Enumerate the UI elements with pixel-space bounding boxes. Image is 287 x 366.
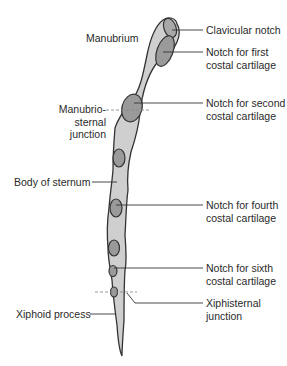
label-notch-sixth: Notch for sixth costal cartilage	[206, 262, 276, 287]
sternum-bone-shape	[107, 18, 179, 356]
label-manubriosternal-junction: Manubrio- sternal junction	[50, 103, 106, 141]
label-body-of-sternum: Body of sternum	[14, 176, 90, 189]
label-notch-fourth-line1: Notch for fourth	[206, 199, 278, 212]
label-notch-sixth-line2: costal cartilage	[206, 275, 276, 288]
label-notch-second-line1: Notch for second	[206, 97, 285, 110]
label-notch-fourth: Notch for fourth costal cartilage	[206, 199, 278, 224]
third-costal-notch-shape	[113, 149, 125, 167]
sternum-diagram: Clavicular notch Notch for first costal …	[0, 0, 287, 366]
label-xiphisternal-junction: Xiphisternal junction	[206, 297, 261, 322]
fourth-costal-notch-shape	[110, 199, 122, 217]
label-notch-first-line2: costal cartilage	[206, 59, 276, 72]
label-xiphisternal-line2: junction	[206, 310, 261, 323]
label-xiphisternal-line1: Xiphisternal	[206, 297, 261, 310]
leader-xiphisternal	[127, 293, 203, 303]
label-manubriosternal-line1: Manubrio-	[50, 103, 106, 116]
sixth-costal-notch-shape	[109, 266, 117, 277]
label-manubrium: Manubrium	[86, 32, 139, 45]
label-notch-sixth-line1: Notch for sixth	[206, 262, 276, 275]
label-clavicular-notch: Clavicular notch	[206, 24, 281, 37]
label-notch-second-line2: costal cartilage	[206, 110, 285, 123]
label-notch-first: Notch for first costal cartilage	[206, 46, 276, 71]
label-notch-fourth-line2: costal cartilage	[206, 212, 278, 225]
label-xiphoid-process: Xiphoid process	[16, 308, 91, 321]
label-manubriosternal-line3: junction	[50, 128, 106, 141]
label-notch-second: Notch for second costal cartilage	[206, 97, 285, 122]
label-notch-first-line1: Notch for first	[206, 46, 276, 59]
label-manubriosternal-line2: sternal	[50, 116, 106, 129]
fifth-costal-notch-shape	[109, 240, 120, 256]
